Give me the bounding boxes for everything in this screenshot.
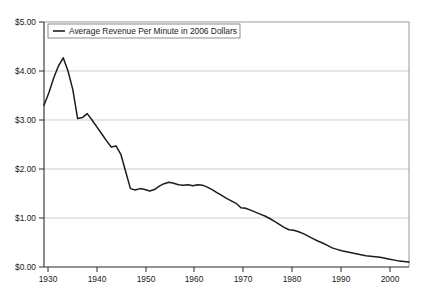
y-tick-label: $1.00 <box>15 213 36 223</box>
y-tick-label: $3.00 <box>15 115 36 125</box>
x-tick-label: 1990 <box>332 274 351 284</box>
y-tick-label: $0.00 <box>15 262 36 272</box>
x-axis <box>44 267 409 272</box>
x-tick-labels: 1930 1940 1950 1960 1970 1980 1990 2000 <box>39 274 400 284</box>
x-tick-label: 1940 <box>88 274 107 284</box>
caption-sliver <box>0 293 421 300</box>
x-tick-label: 1930 <box>39 274 58 284</box>
chart-container: $5.00 $4.00 $3.00 $2.00 $1.00 $0.00 1930… <box>0 0 421 300</box>
y-axis <box>39 22 44 267</box>
y-tick-label: $2.00 <box>15 164 36 174</box>
x-tick-label: 1970 <box>234 274 253 284</box>
data-series-line <box>44 58 409 262</box>
line-chart: $5.00 $4.00 $3.00 $2.00 $1.00 $0.00 1930… <box>0 0 421 300</box>
x-tick-label: 1980 <box>283 274 302 284</box>
gridlines <box>44 71 409 218</box>
x-tick-label: 2000 <box>381 274 400 284</box>
x-tick-label: 1950 <box>137 274 156 284</box>
chart-legend: Average Revenue Per Minute in 2006 Dolla… <box>48 24 240 38</box>
legend-label: Average Revenue Per Minute in 2006 Dolla… <box>69 26 237 36</box>
y-tick-labels: $5.00 $4.00 $3.00 $2.00 $1.00 $0.00 <box>15 17 36 272</box>
y-tick-label: $4.00 <box>15 66 36 76</box>
plot-frame <box>44 22 409 267</box>
y-tick-label: $5.00 <box>15 17 36 27</box>
x-tick-label: 1960 <box>185 274 204 284</box>
